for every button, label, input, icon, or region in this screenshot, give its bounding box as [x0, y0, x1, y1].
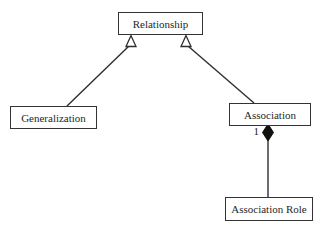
node-generalization-label: Generalization	[21, 112, 86, 124]
generalization-to-relationship-line	[67, 46, 129, 106]
node-association-label: Association	[244, 109, 296, 121]
node-relationship-label: Relationship	[133, 18, 189, 30]
association-to-relationship-line	[188, 46, 254, 103]
node-association-role: Association Role	[225, 197, 313, 221]
node-association-role-label: Association Role	[231, 203, 306, 215]
uml-diagram: Relationship Generalization Association …	[0, 0, 326, 228]
hollow-triangle-arrowhead-left	[126, 36, 136, 47]
filled-diamond-composition-icon	[263, 124, 274, 141]
node-relationship: Relationship	[118, 12, 203, 35]
multiplicity-label: 1	[245, 125, 259, 137]
hollow-triangle-arrowhead-right	[181, 36, 191, 47]
node-generalization: Generalization	[10, 106, 97, 129]
node-association: Association	[229, 103, 311, 126]
